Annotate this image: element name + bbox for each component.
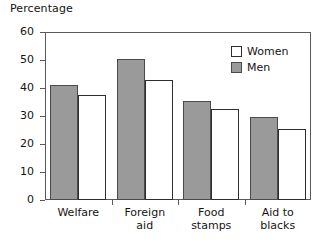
legend-item-label: Women — [247, 45, 288, 58]
chart-title: Percentage — [10, 2, 73, 15]
y-axis-tick-label: 50 — [20, 53, 34, 66]
x-axis-tick-mark — [178, 200, 179, 205]
bar-women — [145, 80, 173, 200]
x-axis-tick-mark — [112, 200, 113, 205]
bar-women — [78, 95, 106, 200]
legend-swatch-icon — [231, 46, 242, 57]
x-axis-label: Foreignaid — [112, 207, 179, 232]
x-axis-label-line: aid — [112, 220, 179, 233]
x-axis-label: Welfare — [45, 207, 112, 220]
bar-men — [50, 85, 78, 200]
x-axis-label-line: Foreign — [112, 207, 179, 220]
bar-women — [278, 129, 306, 200]
x-axis-label-line: Welfare — [45, 207, 112, 220]
y-axis-tick-label: 10 — [20, 165, 34, 178]
x-axis-label-line: stamps — [178, 220, 245, 233]
y-axis-tick-label: 60 — [20, 25, 34, 38]
legend-item-women: Women — [231, 44, 288, 59]
bar-chart: Percentage 0102030405060 WelfareForeigna… — [0, 0, 324, 247]
x-axis-label-line: Aid to — [245, 207, 312, 220]
legend: WomenMen — [231, 44, 288, 76]
legend-item-men: Men — [231, 60, 288, 75]
x-axis-tick-mark — [245, 200, 246, 205]
bar-men — [117, 59, 145, 200]
x-axis-label: Foodstamps — [178, 207, 245, 232]
y-axis-tick-label: 0 — [27, 193, 34, 206]
x-axis-label: Aid toblacks — [245, 207, 312, 232]
y-axis-tick-label: 20 — [20, 137, 34, 150]
legend-item-label: Men — [247, 61, 270, 74]
bar-men — [250, 117, 278, 200]
legend-swatch-icon — [231, 62, 242, 73]
bar-women — [211, 109, 239, 200]
bar-men — [183, 101, 211, 200]
x-axis-label-line: blacks — [245, 220, 312, 233]
y-axis-tick-label: 40 — [20, 81, 34, 94]
y-axis-tick-label: 30 — [20, 109, 34, 122]
x-axis-label-line: Food — [178, 207, 245, 220]
y-axis-tick-mark — [40, 200, 45, 201]
